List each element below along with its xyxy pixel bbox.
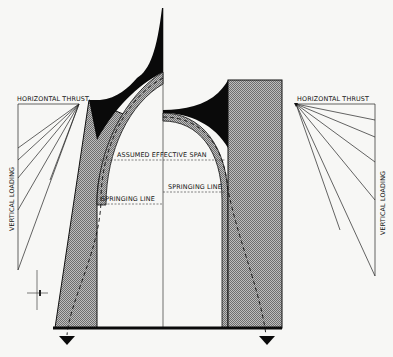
right-ray [296,104,375,120]
left-ray [18,104,79,160]
left-ray [50,104,79,180]
left-vertical-loading-label: VERTICAL LOADING [8,167,16,231]
right-force-diagram [296,104,375,276]
right-ray [296,104,375,200]
right-reaction-arrow-icon [259,336,275,345]
right-ray [296,104,340,230]
right-vertical-loading-label: VERTICAL LOADING [379,171,387,235]
left-horizontal-thrust-label: HORIZONTAL THRUST [17,95,89,103]
springing-line-right-label: SPRINGING LINE [168,183,222,191]
right-ray [296,104,375,276]
buttress-diagram: HORIZONTAL THRUST VERTICAL LOADING HORIZ… [0,0,393,357]
springing-line-left-label: SPRINGING LINE [101,195,155,203]
left-reaction-arrow-icon [59,336,75,345]
cross-mark-icon [27,270,48,310]
right-ray [296,104,375,162]
assumed-effective-span-label: ASSUMED EFFECTIVE SPAN [117,151,207,159]
left-ray [18,104,79,210]
right-arch-rib [163,113,228,328]
right-ray [296,104,375,137]
right-pier [228,80,282,328]
right-horizontal-thrust-label: HORIZONTAL THRUST [297,95,369,103]
